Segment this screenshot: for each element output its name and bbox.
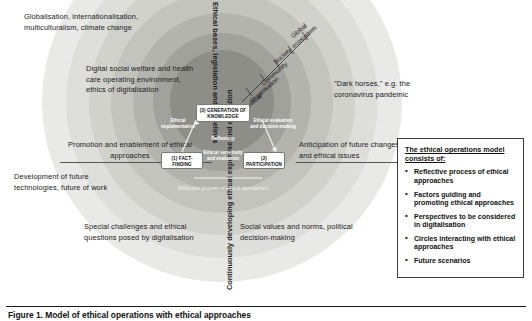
label-reflexivity: Reflexivity — [202, 136, 244, 142]
figure-caption: Figure 1. Model of ethical operations wi… — [8, 310, 508, 321]
node-label: GENERATION OF KNOWLEDGE — [207, 108, 246, 119]
label-ethical-evaluation: Ethical evaluation and decision-making — [250, 118, 296, 129]
callout-dark-horses: "Dark horses," e.g. the coronavirus pand… — [334, 79, 442, 100]
label-ethical-sensitivity: Ethical sensitivity and evaluation — [201, 150, 245, 161]
node-number: (2) — [261, 156, 267, 161]
legend-item: Reflective process of ethical approaches — [405, 168, 516, 186]
node-participation[interactable]: (2) PARTICIPATION — [243, 152, 285, 169]
node-number: (1) — [171, 156, 177, 161]
callout-digital-welfare: Digital social welfare and health care o… — [86, 64, 198, 96]
figure-canvas: Globalisation, internationalisation, mul… — [0, 0, 532, 321]
label-ethical-implementation: Ethical implementation — [158, 118, 198, 129]
callout-development: Development of future technologies, futu… — [14, 172, 124, 193]
node-generation-of-knowledge[interactable]: (3) GENERATION OF KNOWLEDGE — [196, 104, 250, 122]
callout-anticipation: Anticipation of future changes and ethic… — [299, 140, 409, 161]
callout-special-challenges: Special challenges and ethical questions… — [84, 222, 206, 243]
vertical-label-ethical-expertise: Continuously developing ethical expertis… — [225, 190, 235, 290]
legend-box: The ethical operations model consists of… — [397, 138, 524, 278]
legend-item: Future scenarios — [405, 257, 516, 266]
vertical-label-ethical-bases: Ethical bases, legislation and guideline… — [210, 2, 220, 84]
node-fact-finding[interactable]: (1) FACT-FINDING — [161, 152, 203, 169]
caption-divider — [6, 306, 526, 307]
node-label: PARTICIPATION — [246, 162, 282, 167]
callout-social-values: Social values and norms, political decis… — [240, 222, 368, 243]
node-number: (3) — [200, 108, 206, 113]
legend-item: Circles interacting with ethical approac… — [405, 235, 516, 253]
legend-item: Factors guiding and promoting ethical ap… — [405, 191, 516, 209]
legend-title: The ethical operations model consists of… — [405, 145, 516, 163]
callout-globalisation: Globalisation, internationalisation, mul… — [24, 12, 144, 33]
legend-item: Perspectives to be considered in digital… — [405, 213, 516, 231]
legend-list: Reflective process of ethical approaches… — [405, 168, 516, 265]
label-reflective-process: Reflective process of ethical approaches — [178, 185, 268, 191]
